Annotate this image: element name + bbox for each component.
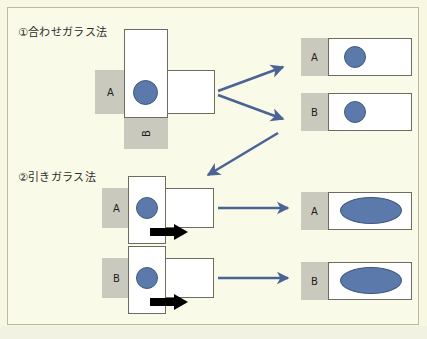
section-2-title: ②引きガラス法: [18, 168, 96, 184]
section-1-slide-b-label: B: [141, 130, 152, 137]
section-2-step-b-label: B: [113, 273, 120, 284]
section-1-result-a-drop: [344, 46, 366, 68]
section-2-step-b-blood-drop: [136, 267, 158, 289]
section-1-slide-a-label: A: [107, 87, 114, 98]
figure-canvas: ①合わせガラス法 A B A B ②引きガラス法 A B A: [0, 0, 427, 339]
section-2-result-b-smear: [340, 267, 402, 294]
section-1-result-b-frosted-area: B: [301, 93, 329, 131]
section-2-step-a-blood-drop: [136, 197, 158, 219]
section-1-horizontal-frosted-area: A: [95, 70, 127, 114]
section-2-result-a-label: A: [311, 206, 318, 217]
section-2-step-a-label: A: [113, 203, 120, 214]
section-2-result-b-label: B: [311, 276, 318, 287]
section-1-result-a-frosted-area: A: [301, 38, 329, 76]
section-1-vertical-frosted-area: B: [124, 117, 168, 149]
section-2-result-a-frosted-area: A: [301, 192, 329, 230]
section-1-result-b-drop: [344, 101, 366, 123]
section-2-result-b-frosted-area: B: [301, 262, 329, 300]
section-2-result-a-smear: [340, 197, 402, 224]
section-1-blood-drop: [133, 80, 158, 105]
section-1-title: ①合わせガラス法: [18, 23, 107, 39]
caption-strip: [0, 326, 427, 339]
section-1-result-a-label: A: [311, 52, 318, 63]
section-1-result-b-label: B: [311, 107, 318, 118]
